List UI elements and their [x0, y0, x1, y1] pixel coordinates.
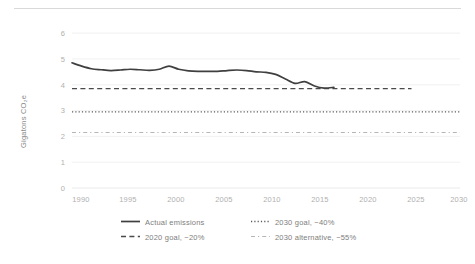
y-tick-0: 0: [61, 184, 65, 193]
legend-label-2030-alternative: 2030 alternative, −55%: [275, 233, 356, 242]
y-tick-6: 6: [61, 29, 65, 38]
gridlines: [72, 33, 460, 188]
x-tick-1995: 1995: [119, 195, 137, 204]
chart-figure: Gigatons CO₂e 6 5 4 3 2 1 0 1990 1995 20…: [0, 0, 475, 264]
legend-label-actual-emissions: Actual emissions: [145, 218, 205, 227]
x-tick-2015: 2015: [311, 195, 329, 204]
x-tick-2030: 2030: [450, 195, 468, 204]
x-tick-2005: 2005: [215, 195, 233, 204]
y-tick-5: 5: [61, 55, 65, 64]
x-axis-tick-labels: 1990 1995 2000 2005 2010 2015 2020 2025 …: [72, 195, 468, 204]
x-tick-2020: 2020: [359, 195, 377, 204]
y-axis-title: Gigatons CO₂e: [19, 95, 28, 148]
x-tick-1990: 1990: [72, 195, 90, 204]
y-tick-4: 4: [61, 81, 65, 90]
y-axis-tick-labels: 6 5 4 3 2 1 0: [61, 29, 65, 193]
chart-legend: Actual emissions 2020 goal, −20% 2030 go…: [121, 218, 356, 242]
legend-label-2030-goal: 2030 goal, −40%: [275, 218, 335, 227]
series-layer: [72, 63, 460, 133]
emissions-line-chart: Gigatons CO₂e 6 5 4 3 2 1 0 1990 1995 20…: [0, 0, 475, 264]
series-line-actual-emissions: [72, 63, 334, 88]
x-tick-2025: 2025: [407, 195, 425, 204]
y-tick-1: 1: [61, 158, 65, 167]
y-tick-2: 2: [61, 132, 65, 141]
x-tick-2010: 2010: [263, 195, 281, 204]
x-tick-2000: 2000: [167, 195, 185, 204]
legend-label-2020-goal: 2020 goal, −20%: [145, 233, 205, 242]
y-tick-3: 3: [61, 106, 65, 115]
